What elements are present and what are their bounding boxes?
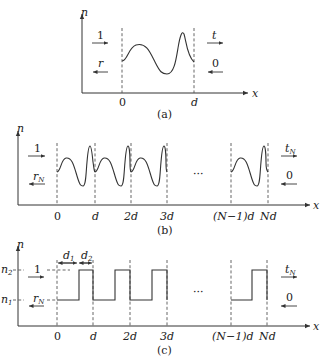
x-tick-3d: 3d (160, 330, 174, 343)
figure: n x 1 r t 0 0 d (a) n x ·· (0, 0, 331, 362)
level-low-label: n1 (1, 293, 13, 307)
transmitted-label: t (212, 29, 217, 42)
level-high-label: n2 (1, 263, 13, 277)
periodic-profile-curve (57, 146, 268, 186)
reflected-label: rN (33, 170, 45, 184)
y-axis-label: n (81, 6, 88, 19)
step-index-profile-last (231, 270, 267, 300)
step-index-profile (57, 270, 167, 300)
incoming-right-label: 0 (212, 57, 219, 70)
y-axis-label: n (17, 122, 24, 135)
ellipsis: ··· (193, 168, 204, 181)
incoming-right-label: 0 (286, 291, 293, 304)
x-tick-0: 0 (54, 210, 61, 223)
x-tick-0: 0 (54, 330, 61, 343)
x-tick-d: d (92, 210, 99, 223)
x-axis-label: x (252, 87, 259, 100)
caption-a: (a) (157, 108, 172, 121)
incoming-right-label: 0 (286, 169, 293, 182)
incident-label: 1 (34, 263, 41, 276)
x-tick-d: d (90, 330, 97, 343)
x-axis-label: x (313, 199, 320, 212)
x-tick-0: 0 (119, 96, 126, 109)
panel-b: n x ··· 1 rN tN 0 0 d 2d 3d (N−1)d Nd (b… (17, 122, 320, 237)
panel-c: n x n2 n1 d1 d2 ··· 1 rN tN 0 0 d (1, 238, 320, 357)
x-tick-n-1-d: (N−1)d (212, 330, 253, 343)
caption-c: (c) (157, 344, 172, 357)
x-tick-nd: Nd (258, 330, 276, 343)
index-profile-curve (122, 33, 194, 74)
x-axis-label: x (313, 320, 320, 333)
x-tick-nd: Nd (259, 210, 277, 223)
y-axis-label: n (17, 238, 24, 251)
layer1-label: d1 (63, 249, 75, 263)
ellipsis: ··· (193, 286, 204, 299)
x-tick-d: d (191, 96, 198, 109)
transmitted-label: tN (285, 142, 296, 156)
incident-label: 1 (97, 29, 104, 42)
x-tick-n-1-d: (N−1)d (213, 210, 254, 223)
x-tick-2d: 2d (123, 210, 138, 223)
reflected-label: r (98, 57, 104, 70)
incident-label: 1 (34, 142, 41, 155)
caption-b: (b) (157, 224, 173, 237)
panel-a: n x 1 r t 0 0 d (a) (81, 6, 259, 121)
x-tick-2d: 2d (122, 330, 137, 343)
layer2-label: d2 (81, 249, 93, 263)
transmitted-label: tN (285, 263, 296, 277)
reflected-label: rN (33, 292, 45, 306)
x-tick-3d: 3d (160, 210, 174, 223)
